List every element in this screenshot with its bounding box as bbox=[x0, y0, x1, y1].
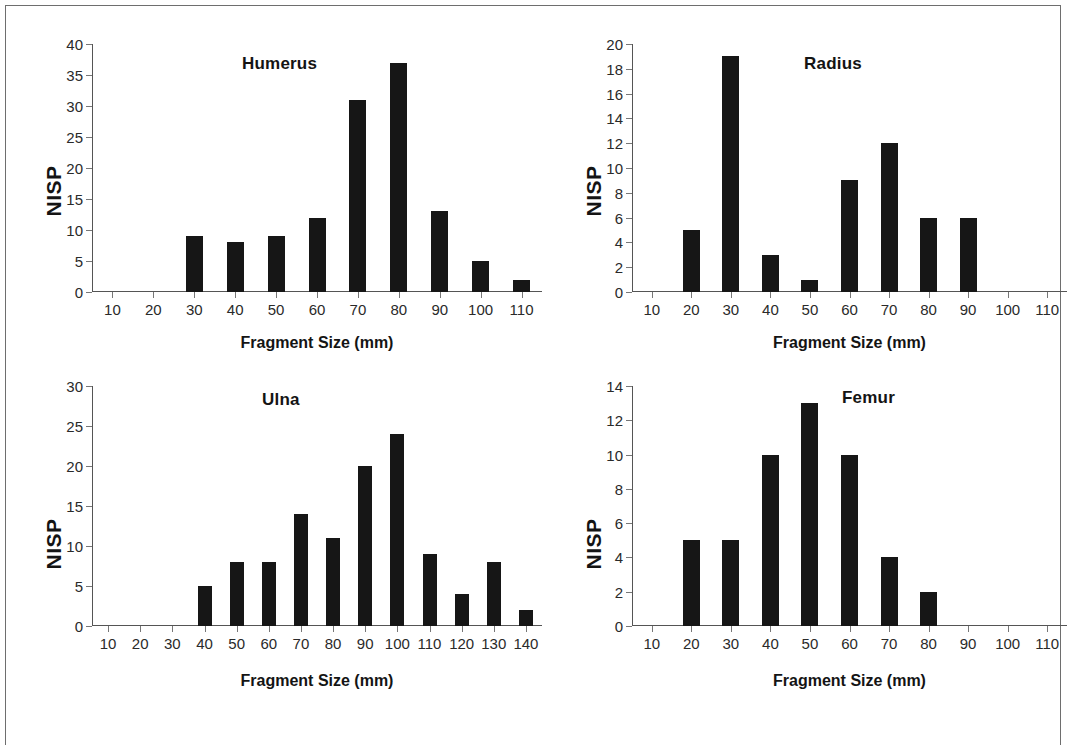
x-tick bbox=[850, 292, 851, 298]
x-tick-label: 100 bbox=[995, 636, 1020, 651]
x-tick bbox=[112, 292, 113, 298]
x-tick-label: 50 bbox=[268, 302, 285, 317]
x-tick-label: 40 bbox=[762, 636, 779, 651]
x-tick bbox=[108, 626, 109, 632]
bar bbox=[841, 180, 858, 292]
bar bbox=[390, 434, 404, 626]
x-tick-label: 30 bbox=[723, 636, 740, 651]
y-tick bbox=[626, 292, 632, 293]
y-tick bbox=[626, 218, 632, 219]
bar bbox=[472, 261, 489, 292]
bar bbox=[881, 557, 898, 626]
x-tick bbox=[153, 292, 154, 298]
x-tick bbox=[140, 626, 141, 632]
bar bbox=[309, 218, 326, 292]
y-tick-label: 8 bbox=[615, 481, 623, 496]
x-tick bbox=[889, 626, 890, 632]
x-tick-label: 80 bbox=[920, 636, 937, 651]
x-tick-label: 50 bbox=[802, 302, 819, 317]
x-tick bbox=[968, 292, 969, 298]
y-tick-label: 4 bbox=[615, 235, 623, 250]
x-tick-label: 70 bbox=[293, 636, 310, 651]
y-tick-label: 2 bbox=[615, 584, 623, 599]
x-tick-label: 110 bbox=[1035, 302, 1059, 317]
bar bbox=[227, 242, 244, 292]
x-tick bbox=[462, 626, 463, 632]
x-tick-label: 100 bbox=[995, 302, 1020, 317]
x-tick bbox=[269, 626, 270, 632]
x-tick bbox=[481, 292, 482, 298]
y-tick-label: 10 bbox=[66, 223, 83, 238]
x-tick-label: 10 bbox=[643, 302, 660, 317]
x-tick bbox=[494, 626, 495, 632]
figure-frame: NISP Humerus 051015202530354010203040506… bbox=[5, 5, 1061, 745]
x-tick bbox=[889, 292, 890, 298]
y-tick bbox=[86, 506, 92, 507]
chart-panel-femur: NISP Femur 02468101214102030405060708090… bbox=[554, 366, 1077, 721]
bar bbox=[519, 610, 533, 626]
chart-panel-humerus: NISP Humerus 051015202530354010203040506… bbox=[14, 16, 554, 366]
x-tick-label: 20 bbox=[683, 636, 700, 651]
y-tick bbox=[86, 466, 92, 467]
x-tick-label: 130 bbox=[481, 636, 506, 651]
y-tick-label: 18 bbox=[606, 61, 623, 76]
x-tick bbox=[1047, 626, 1048, 632]
y-tick bbox=[626, 143, 632, 144]
bar bbox=[881, 143, 898, 292]
x-tick bbox=[968, 626, 969, 632]
bar bbox=[683, 540, 700, 626]
bar bbox=[920, 592, 937, 626]
x-tick-label: 90 bbox=[357, 636, 374, 651]
x-tick bbox=[929, 292, 930, 298]
y-axis-title: NISP bbox=[42, 518, 66, 569]
x-tick bbox=[850, 626, 851, 632]
y-tick-label: 30 bbox=[66, 99, 83, 114]
x-tick-label: 20 bbox=[683, 302, 700, 317]
x-tick-label: 110 bbox=[510, 302, 534, 317]
y-tick bbox=[626, 386, 632, 387]
x-tick-label: 10 bbox=[104, 302, 121, 317]
x-tick-label: 30 bbox=[723, 302, 740, 317]
bar bbox=[722, 540, 739, 626]
x-tick-label: 60 bbox=[841, 302, 858, 317]
x-tick-label: 40 bbox=[762, 302, 779, 317]
x-tick bbox=[770, 626, 771, 632]
x-tick bbox=[810, 292, 811, 298]
y-tick-label: 10 bbox=[66, 539, 83, 554]
bar bbox=[423, 554, 437, 626]
y-tick bbox=[626, 592, 632, 593]
y-tick-label: 12 bbox=[606, 136, 623, 151]
y-axis-title: NISP bbox=[582, 518, 606, 569]
bar bbox=[390, 63, 407, 292]
x-tick bbox=[731, 292, 732, 298]
y-tick bbox=[86, 230, 92, 231]
plot-area-femur: 02468101214102030405060708090100110 bbox=[632, 386, 1067, 626]
bar bbox=[186, 236, 203, 292]
x-tick-label: 10 bbox=[100, 636, 117, 651]
x-tick bbox=[810, 626, 811, 632]
x-tick-label: 90 bbox=[960, 302, 977, 317]
y-tick-label: 20 bbox=[66, 161, 83, 176]
x-tick-label: 140 bbox=[513, 636, 538, 651]
x-tick bbox=[235, 292, 236, 298]
y-tick bbox=[86, 168, 92, 169]
x-tick bbox=[652, 626, 653, 632]
y-tick bbox=[86, 199, 92, 200]
y-axis-title: NISP bbox=[582, 165, 606, 216]
y-tick-label: 20 bbox=[66, 459, 83, 474]
bar bbox=[762, 455, 779, 626]
y-tick bbox=[626, 242, 632, 243]
x-tick-label: 60 bbox=[309, 302, 326, 317]
x-tick-label: 30 bbox=[164, 636, 181, 651]
x-tick bbox=[194, 292, 195, 298]
x-axis-title: Fragment Size (mm) bbox=[92, 334, 542, 352]
y-tick bbox=[626, 489, 632, 490]
chart-panel-ulna: NISP Ulna 051015202530102030405060708090… bbox=[14, 366, 554, 721]
y-tick bbox=[626, 557, 632, 558]
x-tick-label: 40 bbox=[196, 636, 213, 651]
x-tick bbox=[397, 626, 398, 632]
x-tick bbox=[691, 292, 692, 298]
x-tick bbox=[440, 292, 441, 298]
bar bbox=[722, 56, 739, 292]
y-tick-label: 16 bbox=[606, 86, 623, 101]
